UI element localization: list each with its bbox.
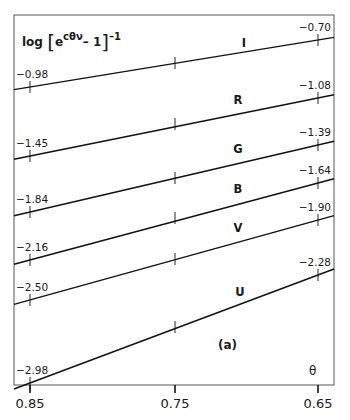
x-tick-label: 0.75 [161,396,190,411]
value-label-left-u: −2.98 [16,364,48,376]
series-name-b: B [234,182,243,196]
series-line-v [14,216,334,305]
series-name-g: G [233,142,242,156]
value-label-left-r: −1.45 [16,137,48,149]
x-axis-label: θ [309,364,316,378]
value-label-left-g: −1.84 [16,193,48,205]
series-line-r [14,95,334,159]
value-label-left-b: −2.16 [16,241,48,253]
value-label-right-r: −1.08 [299,79,331,91]
value-label-left-i: −0.98 [16,68,48,80]
series-name-i: I [242,36,246,50]
series-lines: −0.98−0.70I−1.45−1.08R−1.84−1.39G−2.16−1… [14,21,334,389]
value-label-right-g: −1.39 [299,126,331,138]
series-name-v: V [234,221,243,235]
y-axis-label: log [ecθν– 1]–1 [22,30,121,54]
panel-label: (a) [218,338,237,352]
chart-canvas: −0.98−0.70I−1.45−1.08R−1.84−1.39G−2.16−1… [0,0,350,420]
ylabel-log: log [22,35,43,49]
series-name-u: U [235,285,244,299]
series-line-g [14,141,334,215]
series-line-b [14,179,334,265]
value-label-right-v: −1.90 [299,201,331,213]
ylabel-e: e [55,35,63,49]
ylabel-power: –1 [109,31,121,42]
ylabel-minus-one: – 1 [83,35,102,49]
value-label-right-u: −2.28 [299,256,331,268]
value-label-left-v: −2.50 [16,281,48,293]
ylabel-exponent: cθν [63,31,83,42]
x-tick-label: 0.65 [304,396,333,411]
bracket-close: ] [101,30,109,54]
x-axis-ticks: 0.850.750.65 [16,385,333,411]
series-line-u [14,269,334,389]
x-tick-label: 0.85 [16,396,45,411]
bracket-open: [ [47,30,55,54]
series-name-r: R [234,93,243,107]
value-label-right-i: −0.70 [299,21,331,33]
value-label-right-b: −1.64 [299,164,331,176]
